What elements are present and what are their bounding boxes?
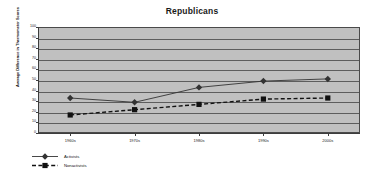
- x-tick-mark: [199, 133, 200, 136]
- x-tick-label: 1980s: [179, 138, 219, 143]
- legend-label: Activists: [64, 153, 79, 161]
- x-tick-label: 1960s: [50, 138, 90, 143]
- y-tick-label: 10: [24, 120, 36, 124]
- data-point-marker: [68, 112, 73, 117]
- y-tick-label: 0: [24, 131, 36, 135]
- y-tick-label: 30: [24, 99, 36, 103]
- data-point-marker: [325, 95, 330, 100]
- y-tick-label: 20: [24, 110, 36, 114]
- legend-swatch: [30, 152, 60, 161]
- y-axis-tick-labels: 0102030405060708090100: [22, 27, 36, 133]
- y-tick-label: 70: [24, 57, 36, 61]
- data-point-marker: [196, 102, 201, 107]
- series-overlay: [38, 27, 360, 133]
- x-tick-mark: [135, 133, 136, 136]
- data-point-marker: [67, 95, 73, 101]
- y-tick-label: 40: [24, 89, 36, 93]
- chart-title: Republicans: [0, 6, 384, 16]
- y-tick-label: 60: [24, 67, 36, 71]
- chart-figure: Republicans Average Difference in Thermo…: [0, 0, 384, 177]
- y-axis-title: Average Difference in Thermometer Scores: [16, 0, 20, 95]
- y-tick-label: 100: [24, 25, 36, 29]
- x-tick-mark: [70, 133, 71, 136]
- legend-item-activists: Activists: [30, 152, 150, 161]
- chart-legend: ActivistsNonactivists: [30, 152, 150, 170]
- data-point-marker: [131, 99, 137, 105]
- data-point-marker: [260, 78, 266, 84]
- legend-item-nonactivists: Nonactivists: [30, 161, 150, 170]
- data-point-marker: [325, 76, 331, 82]
- x-tick-label: 1970s: [115, 138, 155, 143]
- data-point-marker: [196, 84, 202, 90]
- y-tick-label: 50: [24, 78, 36, 82]
- data-point-marker: [261, 96, 266, 101]
- x-tick-mark: [263, 133, 264, 136]
- y-tick-label: 80: [24, 46, 36, 50]
- y-tick-label: 90: [24, 36, 36, 40]
- legend-label: Nonactivists: [64, 162, 87, 170]
- legend-swatch: [30, 161, 60, 170]
- x-tick-label: 1990s: [243, 138, 283, 143]
- x-tick-mark: [328, 133, 329, 136]
- x-tick-label: 2000s: [308, 138, 348, 143]
- data-point-marker: [132, 107, 137, 112]
